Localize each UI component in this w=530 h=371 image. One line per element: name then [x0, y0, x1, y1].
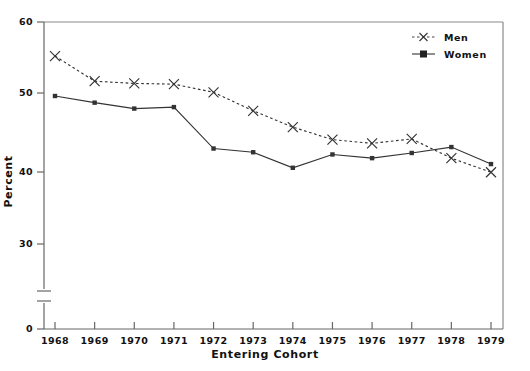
y-tick-label-60: 60	[19, 16, 33, 27]
series-line-women	[55, 96, 491, 168]
x-axis-tick-labels: 1968196919701971197219731974197519761977…	[41, 335, 505, 346]
x-axis-ticks	[55, 322, 491, 329]
datapoint-men-1973	[248, 106, 258, 116]
x-tick-label-1970: 1970	[120, 335, 148, 346]
x-tick-label-1975: 1975	[318, 335, 346, 346]
datapoint-women-1978	[449, 145, 453, 149]
x-tick-label-1969: 1969	[81, 335, 109, 346]
datapoint-men-1978	[446, 153, 456, 163]
y-axis-break-symbol	[37, 291, 51, 301]
datapoint-women-1973	[251, 150, 255, 154]
x-tick-label-1972: 1972	[200, 335, 228, 346]
legend-entry-men: Men	[412, 32, 468, 43]
datapoint-women-1969	[92, 100, 96, 104]
datapoint-women-1972	[211, 146, 215, 150]
series-line-men	[55, 56, 491, 172]
y-tick-label-50: 50	[19, 87, 33, 98]
plot-frame	[44, 22, 503, 329]
legend-entry-women: Women	[412, 49, 487, 60]
datapoint-women-1968	[53, 94, 57, 98]
datapoint-men-1972	[209, 87, 219, 97]
datapoint-women-1971	[172, 105, 176, 109]
legend-marker-square-icon	[420, 51, 427, 58]
polyline-men	[55, 56, 491, 172]
legend-label-men: Men	[444, 32, 468, 43]
datapoint-men-1974	[288, 122, 298, 132]
datapoint-women-1974	[291, 166, 295, 170]
series-markers-women	[53, 94, 493, 170]
line-chart-plot: 60 50 40 30 0 19681969197019711972197319…	[0, 0, 530, 371]
datapoint-men-1979	[486, 167, 496, 177]
datapoint-men-1969	[90, 76, 100, 86]
y-tick-label-0: 0	[26, 323, 33, 334]
x-tick-label-1973: 1973	[239, 335, 267, 346]
x-tick-label-1976: 1976	[358, 335, 386, 346]
datapoint-men-1971	[169, 79, 179, 89]
y-axis-ticks: 60 50 40 30 0	[19, 16, 44, 334]
datapoint-women-1977	[410, 151, 414, 155]
series-markers-men	[50, 51, 496, 177]
chart-container: 60 50 40 30 0 19681969197019711972197319…	[0, 0, 530, 371]
x-tick-label-1968: 1968	[41, 335, 69, 346]
x-tick-label-1977: 1977	[398, 335, 426, 346]
datapoint-men-1968	[50, 51, 60, 61]
y-axis-title: Percent	[2, 152, 15, 212]
datapoint-women-1970	[132, 106, 136, 110]
polyline-women	[55, 96, 491, 168]
chart-legend: Men Women	[412, 32, 487, 60]
datapoint-women-1975	[330, 152, 334, 156]
y-tick-label-40: 40	[19, 166, 33, 177]
x-tick-label-1974: 1974	[279, 335, 307, 346]
datapoint-women-1979	[489, 162, 493, 166]
datapoint-women-1976	[370, 156, 374, 160]
legend-label-women: Women	[444, 49, 487, 60]
legend-marker-x-icon	[420, 33, 428, 41]
y-tick-label-30: 30	[19, 238, 33, 249]
x-tick-label-1971: 1971	[160, 335, 188, 346]
x-axis-title: Entering Cohort	[0, 348, 530, 361]
x-tick-label-1979: 1979	[477, 335, 505, 346]
x-tick-label-1978: 1978	[437, 335, 465, 346]
